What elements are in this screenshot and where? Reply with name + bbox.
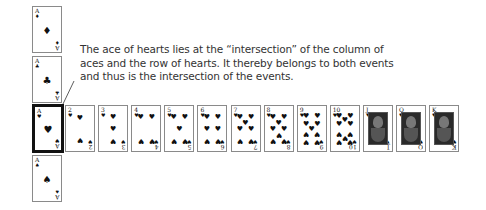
caption-text: The ace of hearts lies at the “intersect…	[80, 43, 410, 84]
pointer-line	[0, 0, 486, 210]
